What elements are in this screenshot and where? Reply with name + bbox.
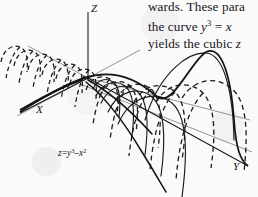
guide-line-upper-left (28, 46, 88, 78)
body-text-line-2-math-variable: x (226, 20, 232, 35)
body-text-line-3-prefix: yields the cubic (148, 36, 236, 51)
body-text-line-3: yields the cubic z (148, 36, 258, 52)
y-axis-line (88, 78, 248, 166)
dashed-cross-sections-right (86, 77, 246, 180)
dashed-curve-l4 (42, 59, 68, 94)
body-text-line-2: the curve y3 = x (148, 15, 258, 36)
x-axis-label: X (35, 103, 44, 115)
guide-line-upper-right (88, 50, 140, 78)
body-text-block: wards. These para the curve y3 = x yield… (148, 0, 258, 52)
guide-line-lower-long (80, 84, 252, 152)
dashed-curve-l3 (28, 54, 54, 88)
ridge-curve-back (206, 51, 248, 166)
equation-term2-exponent: 2 (83, 147, 86, 154)
equation-caption: z=y3–x2 (57, 147, 86, 158)
z-axis-label: Z (91, 2, 98, 14)
x-axis-line (20, 78, 88, 113)
guide-lines (17, 46, 252, 152)
body-text-line-3-math-variable: z (236, 36, 241, 51)
body-text-line-2-prefix: the curve (148, 20, 201, 35)
dashed-curve-r6 (182, 81, 246, 172)
body-text-line-1: wards. These para (148, 0, 258, 15)
surface-edge-left (20, 80, 82, 112)
solid-curve-5 (118, 96, 185, 197)
svg-text:z=y3–x2: z=y3–x2 (57, 147, 86, 158)
body-text-line-2-math-relation: = (211, 20, 225, 35)
body-text-line-1-text: wards. These para (148, 0, 245, 14)
